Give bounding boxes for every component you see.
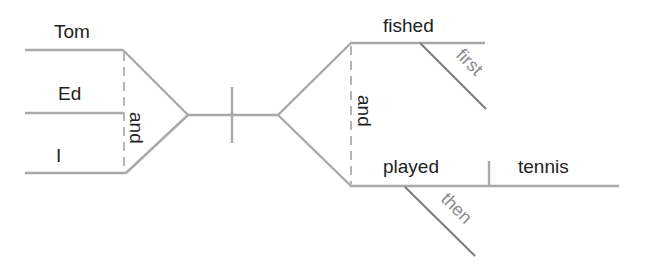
object-word-tennis: tennis — [518, 156, 569, 177]
subject-conjunction-word: and — [126, 112, 147, 144]
subject-fork-upper — [123, 50, 188, 115]
predicate-fork-lower — [278, 115, 351, 186]
subject-word-i: I — [56, 145, 61, 166]
predicate-conjunction-word: and — [354, 95, 375, 127]
predicate-word-played: played — [383, 156, 439, 177]
predicate-word-fished: fished — [383, 15, 434, 36]
baseline — [187, 87, 279, 143]
compound-predicate: and fished first played tennis then — [278, 15, 619, 256]
subject-word-ed: Ed — [58, 83, 81, 104]
subject-word-tom: Tom — [54, 21, 90, 42]
modifier-line-first — [420, 43, 486, 109]
compound-subject: Tom Ed I and — [25, 21, 188, 173]
sentence-diagram: Tom Ed I and and fished first played ten… — [0, 0, 645, 270]
predicate-fork-upper — [278, 43, 351, 115]
modifier-word-then: then — [437, 189, 476, 228]
modifier-word-first: first — [452, 45, 487, 80]
